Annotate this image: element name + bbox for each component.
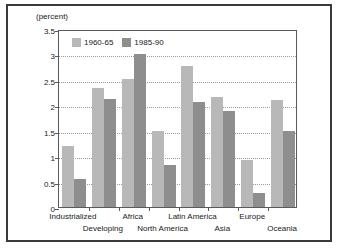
- legend-label: 1960-65: [84, 38, 113, 47]
- x-tick-mark: [238, 207, 239, 211]
- x-tick-mark: [149, 207, 150, 211]
- x-axis-label: Africa: [122, 212, 142, 221]
- bar: [253, 193, 265, 207]
- bar: [62, 146, 74, 207]
- x-tick-mark: [179, 207, 180, 211]
- y-tick-mark: [55, 209, 59, 210]
- y-tick-label: 3.5: [44, 27, 55, 36]
- bars-layer: [59, 31, 296, 207]
- plot-wrapper: 00.511.522.533.5 IndustrializedDevelopin…: [0, 0, 338, 252]
- bar: [211, 97, 223, 207]
- x-axis-label: Oceania: [267, 224, 297, 233]
- x-axis-label: Latin America: [168, 212, 216, 221]
- y-tick-label: 2.5: [44, 77, 55, 86]
- bar: [104, 99, 116, 207]
- bar: [164, 165, 176, 207]
- x-axis-label: Asia: [215, 224, 231, 233]
- plot-area: 00.511.522.533.5: [58, 30, 297, 208]
- y-tick-label: 2: [51, 103, 55, 112]
- x-tick-mark: [89, 207, 90, 211]
- legend-label: 1985-90: [134, 38, 163, 47]
- x-axis-label: North America: [137, 224, 188, 233]
- bar: [181, 66, 193, 207]
- x-axis-label: Industrialized: [49, 212, 96, 221]
- legend-swatch: [122, 38, 131, 47]
- x-tick-mark: [268, 207, 269, 211]
- y-tick-label: 3: [51, 52, 55, 61]
- bar: [241, 160, 253, 207]
- y-tick-label: 0.5: [44, 179, 55, 188]
- bar: [74, 179, 86, 207]
- bar: [271, 100, 283, 207]
- y-tick-label: 1.5: [44, 128, 55, 137]
- bar: [223, 111, 235, 207]
- legend-swatch: [72, 38, 81, 47]
- bar: [152, 131, 164, 207]
- legend: 1960-651985-90: [72, 38, 164, 47]
- bar: [122, 79, 134, 207]
- bar: [92, 88, 104, 208]
- figure: (percent) 00.511.522.533.5 Industrialize…: [0, 0, 338, 252]
- bar: [283, 131, 295, 207]
- y-tick-label: 1: [51, 154, 55, 163]
- x-tick-mark: [119, 207, 120, 211]
- x-axis-label: Europe: [239, 212, 265, 221]
- bar: [193, 102, 205, 207]
- x-axis-label: Developing: [83, 224, 123, 233]
- x-tick-mark: [208, 207, 209, 211]
- legend-item: 1985-90: [122, 38, 163, 47]
- legend-item: 1960-65: [72, 38, 113, 47]
- bar: [134, 54, 146, 207]
